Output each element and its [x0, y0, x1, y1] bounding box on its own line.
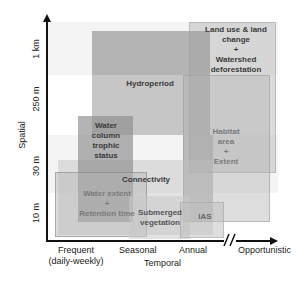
x-axis-line	[46, 240, 272, 242]
y-tick-10m: 10 m	[31, 193, 41, 233]
x-axis-arrow-icon	[270, 237, 278, 245]
x-tick-frequent: Frequent (daily-weekly)	[46, 245, 106, 267]
label-habitat: Habitat area + Extent	[200, 127, 252, 167]
label-hydroperiod: Hydroperiod	[110, 79, 190, 89]
label-ias: IAS	[190, 212, 220, 222]
x-tick-opportunistic: Opportunistic	[238, 245, 291, 255]
y-tick-1km: 1 km	[31, 29, 41, 69]
y-axis-line	[46, 20, 48, 242]
y-axis-title: Spatial	[17, 115, 27, 155]
label-water-column: Water column trophic status	[80, 121, 132, 161]
x-tick-seasonal: Seasonal	[119, 245, 157, 255]
label-connectivity: Connectivity	[106, 175, 186, 185]
x-axis-title: Temporal	[144, 258, 181, 268]
label-submerged-veg: Submerged vegetation	[130, 208, 190, 228]
box-hydroperiod-top	[92, 31, 210, 75]
label-land-use: Land use & land change + Watershed defor…	[196, 25, 276, 75]
x-tick-annual: Annual	[179, 245, 207, 255]
y-tick-30m: 30 m	[31, 146, 41, 186]
y-axis-arrow-icon	[43, 14, 51, 22]
y-tick-250m: 250 m	[31, 79, 41, 119]
diagram: Hydroperiod Land use & land change + Wat…	[0, 0, 305, 287]
axis-break-icon	[222, 233, 238, 247]
